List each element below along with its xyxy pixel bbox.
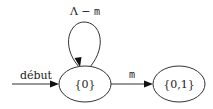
state-node-0[interactable]: {0}: [59, 66, 111, 102]
automaton-diagram: début Λ − m m {0} {0,1}: [0, 0, 213, 109]
start-label: début: [20, 69, 53, 82]
state-label: {0}: [75, 78, 96, 91]
start-edge: début: [12, 69, 59, 88]
self-loop-label: Λ − m: [69, 5, 100, 18]
state-label: {0,1}: [163, 78, 195, 91]
self-loop-edge: Λ − m: [69, 5, 101, 67]
transition-label: m: [129, 69, 135, 80]
transition-edge: m: [111, 69, 153, 88]
state-node-01[interactable]: {0,1}: [153, 66, 205, 102]
arrowhead-icon: [144, 81, 153, 88]
